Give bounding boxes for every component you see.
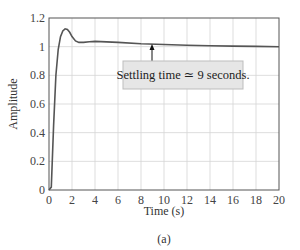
annotation-text: Settling time ≃ 9 seconds. [116,68,249,82]
settling-time-annotation: Settling time ≃ 9 seconds. [116,44,249,89]
y-tick-label: 1 [39,40,45,54]
x-tick-label: 2 [69,193,75,207]
y-tick-label: 0.8 [30,68,45,82]
x-tick-label: 14 [204,193,216,207]
y-tick-label: 0.4 [30,126,45,140]
chart: 02468101214161820 00.20.40.60.811.2 Sett… [0,0,300,250]
y-tick-label: 0 [39,183,45,197]
y-tick-label: 1.2 [30,11,45,25]
x-tick-label: 18 [250,193,262,207]
x-tick-label: 0 [46,193,52,207]
x-tick-label: 16 [227,193,239,207]
y-axis-label: Amplitude [6,78,20,129]
x-tick-label: 4 [92,193,98,207]
x-axis-label: Time (s) [144,204,185,218]
y-tick-label: 0.6 [30,97,45,111]
y-tick-label: 0.2 [30,154,45,168]
x-tick-label: 6 [115,193,121,207]
figure-caption: (a) [157,232,170,246]
y-tick-labels: 00.20.40.60.811.2 [30,11,45,197]
x-tick-label: 20 [273,193,285,207]
